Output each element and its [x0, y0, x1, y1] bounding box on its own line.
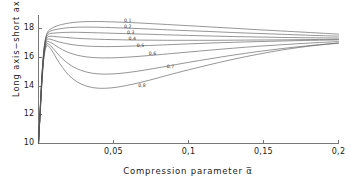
curve-label: 0,7 — [167, 63, 175, 68]
curve-label: 0,3 — [127, 29, 135, 34]
y-tick-label: 12 — [13, 109, 35, 118]
curve-label: 0,5 — [137, 42, 145, 47]
curve-label: 0,8 — [138, 82, 146, 87]
y-tick-label: 10 — [13, 138, 35, 147]
plot-area — [0, 0, 350, 187]
curve-label: 0,4 — [128, 35, 136, 40]
chart-figure: Long axis−short axis a−c, km Compression… — [0, 0, 350, 187]
y-tick-label: 16 — [13, 52, 35, 61]
curve-label: 0,1 — [124, 17, 132, 22]
curve-label: 0,6 — [149, 51, 157, 56]
y-tick-label: 14 — [13, 81, 35, 90]
x-tick-label: 0,1 — [169, 147, 209, 156]
x-tick-label: 0,05 — [94, 147, 134, 156]
x-tick-label: 0,2 — [319, 147, 350, 156]
y-tick-label: 18 — [13, 23, 35, 32]
x-tick-label: 0,15 — [244, 147, 284, 156]
curve-label: 0,2 — [124, 23, 132, 28]
